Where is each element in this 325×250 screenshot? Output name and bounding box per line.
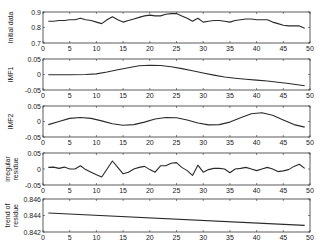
x-tick-label: 45 [279, 139, 287, 146]
x-tick-label: 25 [173, 92, 181, 99]
y-tick-label: 0.05 [27, 56, 41, 63]
x-tick-label: 35 [226, 187, 234, 194]
x-tick-label: 20 [146, 45, 154, 52]
subplot-2: 05101520253035404550-0.0500.05IMF1 [7, 56, 314, 100]
y-tick-label: 0 [37, 71, 41, 78]
x-tick-label: 5 [68, 139, 72, 146]
subplot-4: 05101520253035404550-0.0500.05irregularr… [4, 150, 314, 195]
series-line [48, 213, 304, 225]
x-tick-label: 10 [93, 45, 101, 52]
x-tick-label: 15 [119, 234, 127, 241]
x-tick-label: 50 [306, 187, 314, 194]
x-tick-label: 15 [119, 139, 127, 146]
x-tick-label: 10 [93, 139, 101, 146]
y-tick-label: 0.7 [31, 40, 41, 47]
x-tick-label: 0 [41, 139, 45, 146]
x-tick-label: 35 [226, 92, 234, 99]
y-tick-label: -0.05 [25, 182, 41, 189]
x-tick-label: 35 [226, 139, 234, 146]
axes-frame [43, 199, 310, 232]
x-tick-label: 0 [41, 92, 45, 99]
x-tick-label: 40 [253, 234, 261, 241]
x-tick-label: 5 [68, 92, 72, 99]
y-axis-label: residue [12, 204, 19, 227]
y-tick-label: 0.05 [27, 103, 41, 110]
x-tick-label: 20 [146, 92, 154, 99]
y-tick-label: 0.8 [31, 24, 41, 31]
y-tick-label: 0.842 [23, 229, 41, 236]
x-tick-label: 20 [146, 139, 154, 146]
x-tick-label: 0 [41, 234, 45, 241]
x-tick-label: 10 [93, 234, 101, 241]
x-tick-label: 15 [119, 92, 127, 99]
x-tick-label: 45 [279, 187, 287, 194]
emd-decomposition-figure: 051015202530354045500.70.80.9Initial dat… [0, 0, 325, 250]
y-tick-label: -0.05 [25, 87, 41, 94]
x-tick-label: 30 [199, 45, 207, 52]
y-axis-label: IMF2 [7, 113, 14, 129]
x-tick-label: 50 [306, 45, 314, 52]
x-tick-label: 50 [306, 139, 314, 146]
x-tick-label: 0 [41, 45, 45, 52]
x-tick-label: 35 [226, 234, 234, 241]
x-tick-label: 20 [146, 234, 154, 241]
x-tick-label: 25 [173, 187, 181, 194]
x-tick-label: 35 [226, 45, 234, 52]
x-tick-label: 45 [279, 92, 287, 99]
x-tick-label: 40 [253, 45, 261, 52]
y-axis-label: Initial data [7, 11, 14, 43]
x-tick-label: 40 [253, 139, 261, 146]
x-tick-label: 40 [253, 92, 261, 99]
y-tick-label: 0 [37, 118, 41, 125]
x-tick-label: 5 [68, 187, 72, 194]
x-tick-label: 10 [93, 92, 101, 99]
axes-frame [43, 153, 310, 185]
y-tick-label: -0.05 [25, 134, 41, 141]
x-tick-label: 15 [119, 187, 127, 194]
x-tick-label: 0 [41, 187, 45, 194]
y-axis-label: irregular [4, 155, 12, 181]
y-tick-label: 0.844 [23, 212, 41, 219]
series-line [48, 65, 304, 86]
series-line [48, 113, 304, 127]
x-tick-label: 40 [253, 187, 261, 194]
x-tick-label: 30 [199, 187, 207, 194]
subplot-5: 051015202530354045500.8420.8440.846trend… [4, 196, 314, 242]
y-tick-label: 0 [37, 166, 41, 173]
y-axis-label: IMF1 [7, 66, 14, 82]
x-tick-label: 30 [199, 139, 207, 146]
subplot-3: 05101520253035404550-0.0500.05IMF2 [7, 103, 314, 147]
x-tick-label: 50 [306, 234, 314, 241]
x-tick-label: 30 [199, 92, 207, 99]
y-tick-label: 0.9 [31, 9, 41, 16]
axes-frame [43, 12, 310, 43]
x-tick-label: 25 [173, 234, 181, 241]
y-axis-label: trend of [4, 204, 11, 228]
x-tick-label: 45 [279, 45, 287, 52]
x-tick-label: 45 [279, 234, 287, 241]
x-tick-label: 15 [119, 45, 127, 52]
y-axis-label: residue [12, 157, 19, 180]
x-tick-label: 50 [306, 92, 314, 99]
x-tick-label: 10 [93, 187, 101, 194]
y-tick-label: 0.846 [23, 196, 41, 203]
subplot-1: 051015202530354045500.70.80.9Initial dat… [7, 9, 314, 53]
x-tick-label: 25 [173, 45, 181, 52]
x-tick-label: 25 [173, 139, 181, 146]
x-tick-label: 20 [146, 187, 154, 194]
series-line [48, 14, 304, 29]
axes-frame [43, 106, 310, 137]
series-line [48, 161, 304, 177]
x-tick-label: 30 [199, 234, 207, 241]
x-tick-label: 5 [68, 45, 72, 52]
y-tick-label: 0.05 [27, 150, 41, 157]
x-tick-label: 5 [68, 234, 72, 241]
